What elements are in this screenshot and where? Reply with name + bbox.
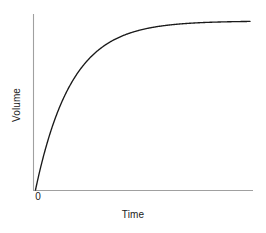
chart-figure: 0 Time Volume [0,0,266,233]
x-axis-title: Time [0,209,266,220]
y-axis-title: Volume [11,55,22,155]
volume-curve-line [36,21,251,190]
x-axis-origin-tick-label: 0 [33,191,43,202]
